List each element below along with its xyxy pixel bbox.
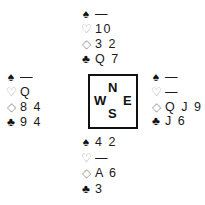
spade-icon: ♠ bbox=[79, 135, 93, 150]
compass-west-label: W bbox=[94, 94, 106, 107]
club-icon: ♣ bbox=[149, 114, 163, 129]
west-clubs-cards: 9 4 bbox=[20, 115, 42, 130]
heart-icon: ♡ bbox=[4, 85, 18, 100]
west-spades-row: ♠ — bbox=[4, 70, 34, 85]
diamond-icon: ◇ bbox=[4, 100, 18, 115]
south-clubs-cards: 3 bbox=[95, 182, 103, 197]
club-icon: ♣ bbox=[79, 182, 93, 197]
west-diamonds-row: ◇ 8 4 bbox=[4, 100, 42, 115]
west-clubs-row: ♣ 9 4 bbox=[4, 115, 42, 130]
south-hearts-cards: — bbox=[95, 151, 109, 166]
club-icon: ♣ bbox=[4, 115, 18, 130]
heart-icon: ♡ bbox=[79, 151, 93, 166]
west-diamonds-cards: 8 4 bbox=[20, 100, 42, 115]
diamond-icon: ◇ bbox=[149, 100, 163, 115]
diamond-icon: ◇ bbox=[79, 37, 93, 52]
west-hearts-row: ♡ Q bbox=[4, 85, 31, 100]
south-diamonds-row: ◇ A 6 bbox=[79, 166, 118, 181]
north-clubs-row: ♣ Q 7 bbox=[79, 52, 120, 67]
east-clubs-row: ♣ J 6 bbox=[149, 114, 186, 129]
compass-east-label: E bbox=[123, 94, 132, 107]
north-clubs-cards: Q 7 bbox=[95, 52, 120, 67]
compass-south-label: S bbox=[108, 107, 117, 120]
east-hearts-cards: — bbox=[165, 85, 179, 100]
spade-icon: ♠ bbox=[4, 70, 18, 85]
east-clubs-cards: J 6 bbox=[165, 114, 186, 129]
north-spades-cards: — bbox=[95, 7, 109, 22]
club-icon: ♣ bbox=[79, 52, 93, 67]
north-diamonds-row: ◇ 3 2 bbox=[79, 37, 117, 52]
west-hearts-cards: Q bbox=[20, 85, 31, 100]
east-spades-row: ♠ — bbox=[149, 70, 179, 85]
south-hearts-row: ♡ — bbox=[79, 151, 109, 166]
south-diamonds-cards: A 6 bbox=[95, 166, 118, 181]
east-diamonds-row: ◇ Q J 9 bbox=[149, 100, 202, 115]
compass-box: N W E S bbox=[88, 74, 138, 129]
north-spades-row: ♠ — bbox=[79, 7, 109, 22]
compass-north-label: N bbox=[108, 81, 117, 94]
south-spades-row: ♠ 4 2 bbox=[79, 135, 117, 150]
diamond-icon: ◇ bbox=[79, 166, 93, 181]
south-clubs-row: ♣ 3 bbox=[79, 182, 103, 197]
west-spades-cards: — bbox=[20, 70, 34, 85]
heart-icon: ♡ bbox=[79, 22, 93, 37]
spade-icon: ♠ bbox=[149, 70, 163, 85]
north-hearts-row: ♡ 10 bbox=[79, 22, 112, 37]
east-spades-cards: — bbox=[165, 70, 179, 85]
spade-icon: ♠ bbox=[79, 7, 93, 22]
south-spades-cards: 4 2 bbox=[95, 135, 117, 150]
north-diamonds-cards: 3 2 bbox=[95, 37, 117, 52]
east-hearts-row: ♡ — bbox=[149, 85, 179, 100]
north-hearts-cards: 10 bbox=[95, 22, 112, 37]
heart-icon: ♡ bbox=[149, 85, 163, 100]
east-diamonds-cards: Q J 9 bbox=[165, 100, 202, 115]
